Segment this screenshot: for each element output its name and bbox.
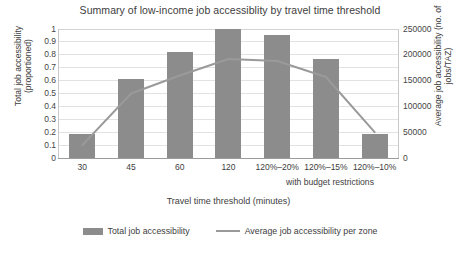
x-axis-tick-label: 120%–15% <box>302 162 351 172</box>
x-axis-tick-label: 30 <box>58 162 107 172</box>
y-axis-left-tick-label: 0.1 <box>16 140 56 150</box>
legend-bar-swatch-icon <box>83 228 103 235</box>
legend-bar-label: Total job accessibility <box>108 226 190 236</box>
y-axis-left-tick-label: 0 <box>16 153 56 163</box>
x-axis-tick-label: 45 <box>107 162 156 172</box>
y-axis-right-tick-label: 0 <box>403 153 455 163</box>
chart-title: Summary of low-income job accessiblity b… <box>70 4 390 17</box>
legend-line-label: Average job accessibility per zone <box>245 226 378 236</box>
chart-container: Summary of low-income job accessiblity b… <box>0 0 460 260</box>
chart-legend: Total job accessibility Average job acce… <box>0 226 460 236</box>
x-axis-title: Travel time threshold (minutes) <box>58 196 399 206</box>
line-series-layer <box>58 29 399 158</box>
legend-item-bar[interactable]: Total job accessibility <box>83 226 190 236</box>
x-axis-tick-label: 120 <box>204 162 253 172</box>
x-axis-tick-label: 120%–20% <box>253 162 302 172</box>
legend-line-swatch-icon <box>216 230 240 232</box>
budget-restrictions-note: with budget restrictions <box>240 177 420 187</box>
y-axis-left-title: Total job accessibility (proportioned) <box>13 1 33 131</box>
legend-item-line[interactable]: Average job accessibility per zone <box>216 226 378 236</box>
x-axis-line <box>58 158 399 159</box>
line-series-path[interactable] <box>82 59 374 145</box>
x-axis-tick-label: 120%–10% <box>350 162 399 172</box>
y-axis-right-title: Average job accessibility (no. of jobs/T… <box>433 1 453 131</box>
x-axis-tick-label: 60 <box>155 162 204 172</box>
